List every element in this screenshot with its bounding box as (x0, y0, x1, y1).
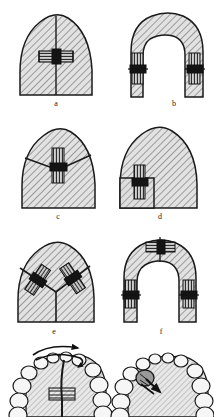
panel-a (20, 15, 92, 95)
panel-b (128, 13, 205, 97)
panel-d (120, 127, 197, 208)
caption-c: c (48, 212, 68, 222)
panel-c (22, 129, 95, 208)
panel-a-screw (39, 49, 73, 64)
figure-panel-grid: a b c d e f (0, 0, 214, 417)
panel-f-screw-top (146, 240, 175, 254)
caption-e: e (44, 327, 64, 337)
caption-a: a (46, 99, 66, 109)
panel-f (121, 237, 199, 322)
caption-b: b (164, 99, 184, 109)
panel-h-dental-arch (111, 353, 214, 417)
panel-c-screw (50, 148, 67, 183)
caption-d: d (150, 212, 170, 222)
panel-g-dental-arch (9, 347, 112, 417)
caption-f: f (151, 327, 171, 337)
panel-e (18, 242, 94, 322)
figure-canvas (0, 0, 214, 417)
